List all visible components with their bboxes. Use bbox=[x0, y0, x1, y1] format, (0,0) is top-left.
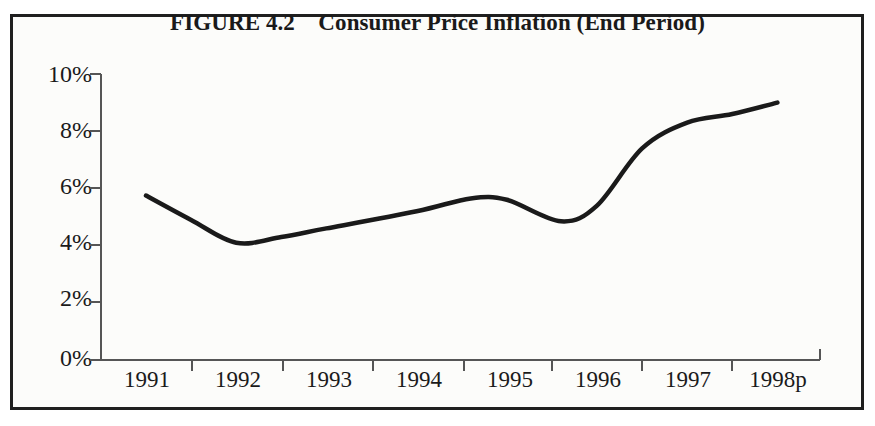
y-axis-tick-10: 10% bbox=[22, 62, 92, 86]
figure-border bbox=[10, 14, 864, 410]
y-axis-tick-8: 8% bbox=[22, 118, 92, 142]
y-axis-tick-4: 4% bbox=[22, 230, 92, 254]
x-axis-tick-label-1996: 1996 bbox=[552, 368, 644, 391]
x-axis-tick-label-1995: 1995 bbox=[464, 368, 556, 391]
y-axis-tick-label-6: 6% bbox=[28, 174, 92, 198]
x-axis-tick-label-1992: 1992 bbox=[192, 368, 284, 391]
x-axis-tick-label-1993: 1993 bbox=[283, 368, 375, 391]
y-axis-tick-label-2: 2% bbox=[28, 286, 92, 310]
y-axis-tick-label-0: 0% bbox=[28, 346, 92, 370]
y-axis-tick-label-10: 10% bbox=[28, 62, 92, 86]
x-axis-tick-label-1997: 1997 bbox=[642, 368, 734, 391]
figure-title: FIGURE 4.2 Consumer Price Inflation (End… bbox=[0, 10, 875, 36]
y-axis-tick-0: 0% bbox=[22, 346, 92, 370]
figure-container: FIGURE 4.2 Consumer Price Inflation (End… bbox=[0, 0, 875, 426]
x-axis-tick-label-1998p: 1998p bbox=[732, 368, 824, 391]
y-axis-tick-label-4: 4% bbox=[28, 230, 92, 254]
y-axis-tick-2: 2% bbox=[22, 286, 92, 310]
x-axis-tick-label-1991: 1991 bbox=[101, 368, 193, 391]
x-axis-tick-label-1994: 1994 bbox=[373, 368, 465, 391]
y-axis-tick-6: 6% bbox=[22, 174, 92, 198]
y-axis-tick-label-8: 8% bbox=[28, 118, 92, 142]
